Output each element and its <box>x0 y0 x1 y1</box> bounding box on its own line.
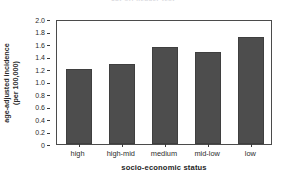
x-axis-tick-mark <box>122 144 123 147</box>
chart-title-fragment: cut-off header text <box>0 0 286 2</box>
y-axis-tick-label: 0.4 <box>21 117 45 124</box>
y-axis-tick-label: 0.8 <box>21 92 45 99</box>
y-axis-tick-label: 0.2 <box>21 129 45 136</box>
x-axis-tick-mark <box>79 144 80 147</box>
bar-slot <box>187 21 230 144</box>
bar <box>152 47 178 145</box>
x-axis-tick-label: high <box>71 149 85 159</box>
x-axis-tick-labels: highhigh-midmediummid-lowlow <box>56 149 272 161</box>
bar <box>66 69 92 144</box>
y-axis-tick-label: 1.4 <box>21 54 45 61</box>
y-axis-tick-mark <box>47 58 50 59</box>
y-axis-tick-mark <box>47 33 50 34</box>
y-axis-tick-mark <box>47 120 50 121</box>
y-axis-tick-label: 1.2 <box>21 67 45 74</box>
y-axis-tick-mark <box>47 70 50 71</box>
bar-slot <box>100 21 143 144</box>
x-axis-tick-mark <box>208 144 209 147</box>
y-axis-tick-mark <box>47 133 50 134</box>
y-axis-tick-label: 2.0 <box>21 17 45 24</box>
x-axis-tick-label: low <box>245 149 256 159</box>
y-axis-tick-mark <box>47 20 50 21</box>
y-axis-tick-mark <box>47 83 50 84</box>
y-axis-title-line1: age-adjusted incidence <box>2 43 11 122</box>
bar-chart-figure: cut-off header text age-adjusted inciden… <box>0 0 286 184</box>
x-axis-tick-label: mid-low <box>194 149 219 159</box>
y-axis-tick-label: 0 <box>21 142 45 149</box>
bar <box>238 37 264 144</box>
y-axis-tick-labels: 00.20.40.60.81.01.21.41.61.82.0 <box>22 20 50 145</box>
y-axis-tick-label: 1.6 <box>21 42 45 49</box>
plot-area <box>56 20 272 145</box>
bar-slot <box>57 21 100 144</box>
y-axis-tick-mark <box>47 145 50 146</box>
y-axis-tick-mark <box>47 108 50 109</box>
y-axis-tick-mark <box>47 95 50 96</box>
bar-slot <box>230 21 273 144</box>
x-axis-tick-mark <box>251 144 252 147</box>
bar <box>109 64 135 144</box>
bars-container <box>57 21 271 144</box>
x-axis-tick-label: medium <box>151 149 177 159</box>
y-axis-tick-label: 1.0 <box>21 79 45 86</box>
bar-slot <box>143 21 186 144</box>
y-axis-tick-label: 1.8 <box>21 29 45 36</box>
y-axis-title-line2: (per 100,000) <box>11 43 20 122</box>
y-axis-tick-mark <box>47 45 50 46</box>
x-axis-tick-label: high-mid <box>107 149 135 159</box>
x-axis-tick-mark <box>165 144 166 147</box>
y-axis-title: age-adjusted incidence (per 100,000) <box>0 20 22 145</box>
bar <box>195 52 221 144</box>
x-axis-title: socio-economic status <box>56 163 272 172</box>
y-axis-tick-label: 0.6 <box>21 104 45 111</box>
